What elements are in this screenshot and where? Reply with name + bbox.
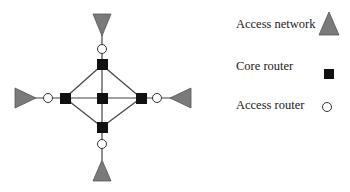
core-router-top-icon — [97, 59, 108, 70]
legend-label-core-router: Core router — [236, 59, 293, 74]
access-router-bottom-icon — [98, 140, 107, 149]
access-network-left-icon — [15, 88, 36, 108]
core-router-left-icon — [60, 93, 71, 104]
legend-access-router-icon — [323, 103, 332, 112]
access-router-right-icon — [153, 94, 162, 103]
access-router-top-icon — [98, 45, 107, 54]
legend-label-access-network: Access network — [236, 17, 316, 32]
core-router-center-icon — [97, 93, 108, 104]
legend-access-network-icon — [319, 12, 339, 35]
access-network-bottom-icon — [93, 160, 111, 181]
core-router-right-icon — [136, 93, 147, 104]
core-router-bottom-icon — [97, 122, 108, 133]
legend-label-access-router: Access router — [236, 98, 304, 113]
access-network-top-icon — [93, 14, 111, 36]
access-router-left-icon — [44, 94, 53, 103]
access-network-right-icon — [170, 88, 191, 108]
legend-core-router-icon — [324, 69, 334, 79]
